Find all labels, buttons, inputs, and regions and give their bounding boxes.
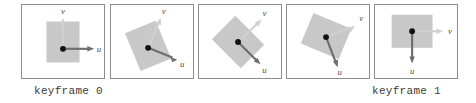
u-label-2: u: [262, 65, 267, 75]
v-label-3: v: [359, 13, 363, 23]
origin-dot-3: [323, 34, 329, 40]
panel-2-canvas: v u: [199, 5, 281, 78]
panel-3-canvas: v u: [287, 5, 369, 78]
u-label-4: u: [410, 66, 415, 76]
panel-keyframe-0: v u: [21, 4, 105, 79]
v-label-2: v: [262, 8, 266, 18]
caption-keyframe-1: keyframe 1: [372, 84, 441, 98]
v-label-0: v: [61, 6, 65, 16]
panel-step-3: v u: [286, 4, 370, 79]
panel-keyframe-1: v u: [374, 4, 458, 79]
origin-dot-0: [60, 46, 66, 52]
origin-dot-1: [145, 45, 151, 51]
panel-1-canvas: v u: [111, 5, 193, 78]
origin-dot-2: [235, 39, 241, 45]
rotation-keyframe-figure: v u v u: [0, 0, 476, 103]
caption-keyframe-0: keyframe 0: [34, 84, 103, 98]
panel-step-2: v u: [198, 4, 282, 79]
u-label-3: u: [337, 67, 342, 77]
panel-0-canvas: v u: [22, 5, 104, 78]
panel-step-1: v u: [110, 4, 194, 79]
v-label-4: v: [448, 26, 452, 36]
u-label-1: u: [180, 59, 185, 69]
panel-4-canvas: v u: [375, 5, 457, 78]
v-label-1: v: [162, 6, 166, 16]
origin-dot-4: [409, 28, 415, 34]
u-label-0: u: [97, 44, 102, 54]
